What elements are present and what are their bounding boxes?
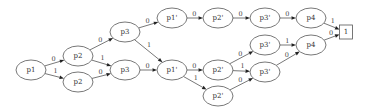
arrow-head-icon (248, 78, 253, 82)
edge: 0 (45, 55, 65, 66)
edge-label: 0 (285, 51, 289, 59)
edge: 0 (280, 10, 296, 20)
decision-node: p3' (250, 62, 280, 82)
edge-label: 1 (194, 74, 198, 82)
node-label: p3' (260, 41, 271, 49)
edge-label: 0 (51, 55, 55, 63)
terminal-node: 1 (340, 25, 353, 39)
arrow-head-icon (153, 22, 158, 25)
decision-node: p1' (157, 8, 187, 28)
edge-label: 1 (241, 62, 245, 70)
arrow-head-icon (202, 86, 207, 90)
edge-label: 1 (53, 67, 57, 75)
node-label: p2' (213, 14, 224, 22)
arrow-head-icon (246, 16, 251, 20)
edge-line (92, 60, 107, 65)
edge-label: 0 (239, 10, 243, 18)
arrow-head-icon (295, 52, 300, 56)
edge: 1 (280, 37, 296, 47)
arrow-head-icon (199, 16, 204, 20)
edge: 1 (233, 62, 250, 73)
arrow-head-icon (108, 38, 113, 42)
decision-node: p4 (296, 8, 326, 28)
node-label: p4 (307, 14, 316, 22)
edge-label: 1 (147, 41, 151, 49)
edge: 0 (230, 76, 253, 90)
decision-node: p1 (16, 60, 46, 80)
edge-label: 1 (100, 54, 104, 62)
node-label: p2' (213, 92, 224, 100)
edge-label: 0 (238, 50, 242, 58)
edge-label: 0 (98, 36, 102, 44)
node-label: p4 (307, 41, 316, 49)
node-label: p1' (167, 14, 178, 22)
edge: 0 (139, 17, 159, 28)
edge: 0 (187, 62, 203, 72)
nodes-layer: p1p2p2p3p3p1'p1'p2'p2'p2'p3'p3'p3'p4p41 (16, 8, 353, 106)
arrow-head-icon (335, 26, 340, 29)
arrow-head-icon (153, 68, 158, 72)
decision-node: p3' (250, 35, 280, 55)
node-label: p1 (27, 66, 36, 74)
arrow-head-icon (59, 60, 64, 63)
edge: 1 (92, 54, 112, 66)
decision-node: p2' (203, 86, 233, 106)
node-label: p3 (121, 28, 130, 36)
edge: 1 (135, 40, 163, 63)
edge-label: 0 (192, 10, 196, 18)
node-label: p3' (260, 68, 271, 76)
decision-node: p1' (157, 60, 187, 80)
node-label: p2' (213, 66, 224, 74)
edge-label: 0 (329, 29, 333, 37)
edge-label: 0 (98, 68, 102, 76)
arrow-head-icon (106, 63, 111, 66)
node-label: 1 (344, 28, 348, 36)
arrow-head-icon (245, 69, 250, 73)
edge: 0 (92, 68, 111, 79)
decision-node: p3 (110, 22, 140, 42)
edge-label: 0 (146, 62, 150, 70)
decision-node: p2' (203, 8, 233, 28)
decision-node: p2 (63, 46, 93, 66)
bdd-diagram: 01010010000101010100 p1p2p2p3p3p1'p1'p2'… (0, 0, 370, 108)
edge-label: 1 (285, 37, 289, 45)
arrow-head-icon (106, 73, 111, 76)
edge: 0 (140, 62, 157, 72)
node-label: p2 (74, 78, 83, 86)
edge-label: 0 (238, 76, 242, 84)
edge: 0 (324, 29, 339, 40)
decision-node: p2' (203, 60, 233, 80)
decision-node: p3' (250, 8, 280, 28)
arrow-head-icon (248, 51, 253, 55)
edge-label: 0 (285, 10, 289, 18)
edge: 0 (187, 10, 203, 20)
decision-node: p2 (63, 72, 93, 92)
decision-node: p3 (110, 60, 140, 80)
arrow-head-icon (199, 68, 204, 72)
edge-label: 0 (145, 17, 149, 25)
edge: 0 (276, 51, 299, 66)
node-label: p3' (260, 14, 271, 22)
edge: 1 (45, 67, 64, 79)
arrow-head-icon (59, 76, 64, 79)
edge-line (233, 71, 246, 72)
edge-label: 1 (331, 17, 335, 25)
arrow-head-icon (335, 34, 340, 37)
edge: 1 (183, 74, 206, 90)
node-label: p2 (74, 52, 83, 60)
node-label: p3 (121, 66, 130, 74)
arrow-head-icon (292, 16, 297, 20)
edge: 0 (90, 36, 113, 50)
edge-label: 0 (192, 62, 196, 70)
decision-node: p4 (296, 35, 326, 55)
arrow-head-icon (292, 43, 297, 47)
edge: 0 (233, 10, 250, 20)
node-label: p1' (167, 66, 178, 74)
